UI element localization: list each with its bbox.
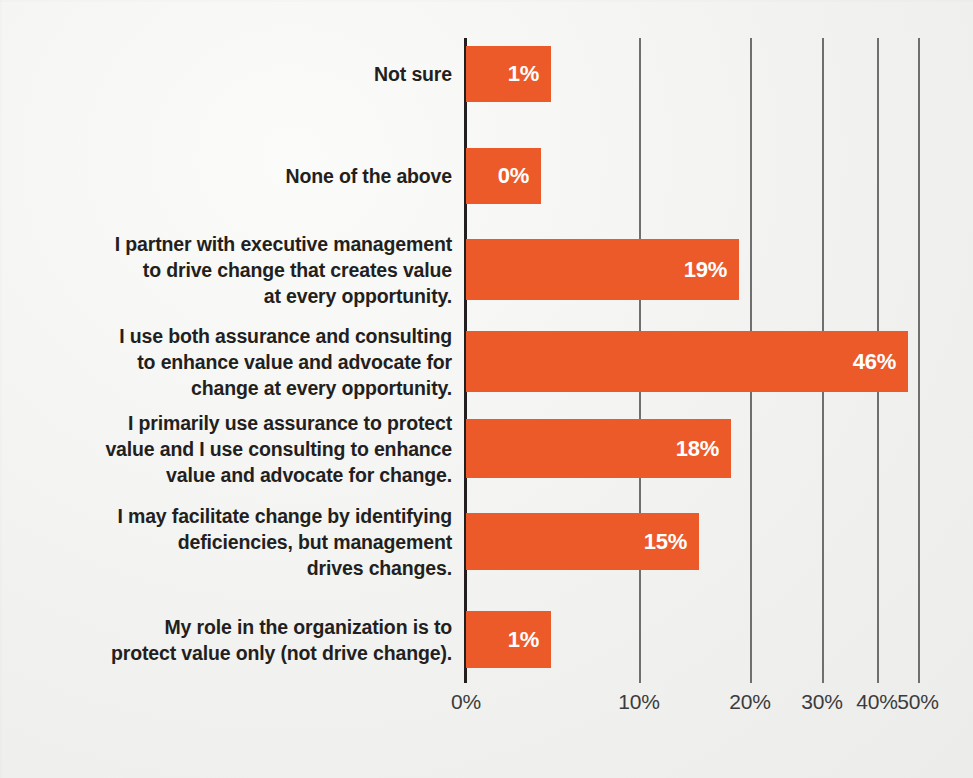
bar-chart-plot: Not sureNone of the aboveI partner with … (0, 0, 973, 778)
bar-value-label: 1% (508, 63, 539, 85)
x-tick-label: 40% (856, 690, 897, 714)
bar-value-label: 1% (508, 629, 539, 651)
x-tick-label: 50% (897, 690, 938, 714)
category-label: I partner with executive management to d… (0, 231, 452, 309)
x-tick-label: 0% (451, 690, 481, 714)
category-label: Not sure (0, 61, 452, 87)
gridline-50pct (918, 38, 920, 683)
x-tick-label: 30% (801, 690, 842, 714)
category-label: None of the above (0, 163, 452, 189)
chart-page: Not sureNone of the aboveI partner with … (0, 0, 973, 778)
bar (466, 331, 908, 392)
x-tick-label: 10% (618, 690, 659, 714)
bar-value-label: 46% (853, 351, 896, 373)
category-label: I may facilitate change by identifying d… (0, 503, 452, 581)
bar-value-label: 0% (498, 165, 529, 187)
category-label: I use both assurance and consulting to e… (0, 323, 452, 401)
category-label: I primarily use assurance to protect val… (0, 410, 452, 488)
x-tick-label: 20% (729, 690, 770, 714)
bar-value-label: 19% (684, 259, 727, 281)
bar-value-label: 15% (644, 531, 687, 553)
bar-value-label: 18% (676, 438, 719, 460)
category-label: My role in the organization is to protec… (0, 614, 452, 666)
